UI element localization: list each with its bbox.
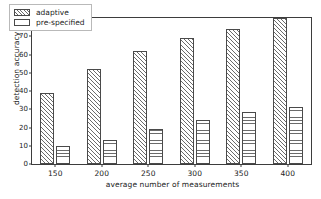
legend-swatch-adaptive <box>14 9 30 16</box>
bar-adaptive-250 <box>133 51 147 164</box>
bar-pre-specified-150 <box>56 146 70 164</box>
x-axis-label: average number of measurements <box>30 180 315 189</box>
y-tick-mark <box>29 164 32 165</box>
x-tick-mark <box>148 164 149 167</box>
bar-chart-figure: detection accuracy (%) average number of… <box>0 0 321 199</box>
y-tick-mark <box>29 145 32 146</box>
x-tick-mark <box>194 164 195 167</box>
y-tick-mark <box>29 36 32 37</box>
legend-label-pre-specified: pre-specified <box>36 18 85 27</box>
bar-pre-specified-250 <box>149 129 163 164</box>
x-tick-mark <box>101 164 102 167</box>
bar-adaptive-350 <box>226 29 240 164</box>
y-tick-mark <box>29 91 32 92</box>
y-tick-mark <box>29 109 32 110</box>
x-tick-mark <box>241 164 242 167</box>
y-tick-mark <box>29 127 32 128</box>
bar-adaptive-200 <box>87 69 101 164</box>
bar-adaptive-150 <box>40 93 54 164</box>
chart-legend: adaptive pre-specified <box>9 4 92 31</box>
legend-swatch-pre-specified <box>14 19 30 26</box>
x-tick-mark <box>55 164 56 167</box>
legend-item-adaptive: adaptive <box>14 7 85 17</box>
y-tick-mark <box>29 72 32 73</box>
bar-pre-specified-400 <box>289 107 303 164</box>
bar-pre-specified-350 <box>242 112 256 164</box>
bar-adaptive-300 <box>180 38 194 164</box>
x-tick-mark <box>287 164 288 167</box>
plot-inner: 01020304050607080150200250300350400 <box>32 18 311 164</box>
y-tick-mark <box>29 54 32 55</box>
bar-pre-specified-200 <box>103 140 117 164</box>
legend-item-pre-specified: pre-specified <box>14 17 85 27</box>
plot-area: 01020304050607080150200250300350400 <box>31 17 312 165</box>
legend-label-adaptive: adaptive <box>36 8 69 17</box>
bar-adaptive-400 <box>273 18 287 164</box>
bar-pre-specified-300 <box>196 120 210 164</box>
